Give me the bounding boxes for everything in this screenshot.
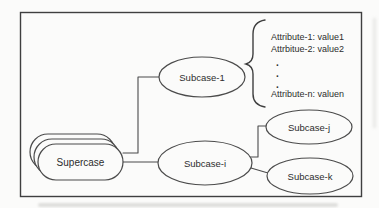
node-subcase-i: Subcase-i (158, 141, 252, 185)
attribute-brace (246, 20, 265, 107)
edge-supercase-to-subcase-1 (123, 77, 159, 153)
subcase-k-label: Subcase-k (288, 171, 333, 182)
node-subcase-j: Subcase-j (266, 110, 352, 144)
scan-artifact-bottom (38, 203, 338, 207)
subcase-j-label: Subcase-j (288, 122, 330, 133)
attribute-line-2: Attrbitue-2: value2 (271, 44, 344, 54)
edge-subcase-i-to-subcase-k (251, 168, 268, 173)
supercase-stack: Supercase (30, 134, 123, 180)
node-subcase-k: Subcase-k (267, 158, 353, 194)
scanned-figure: Supercase Subcase-1 Subcase-j Subcase-i … (0, 0, 379, 208)
supercase-label: Supercase (57, 157, 105, 168)
attribute-line-1: Attribute-1: value1 (271, 32, 344, 42)
attribute-list: Attribute-1: value1 Attrbitue-2: value2 … (271, 32, 344, 99)
edge-subcase-i-to-subcase-j (250, 126, 266, 157)
node-subcase-1: Subcase-1 (159, 57, 245, 97)
vertical-ellipsis-dot-2: . (276, 68, 279, 79)
scan-artifact-right (373, 18, 376, 128)
subcase-1-label: Subcase-1 (179, 72, 224, 83)
vertical-ellipsis-dot-1: . (276, 57, 279, 68)
subcase-i-label: Subcase-i (184, 158, 226, 169)
attribute-line-n: Attribute-n: valuen (271, 89, 344, 99)
diagram-canvas: Supercase Subcase-1 Subcase-j Subcase-i … (0, 0, 379, 208)
